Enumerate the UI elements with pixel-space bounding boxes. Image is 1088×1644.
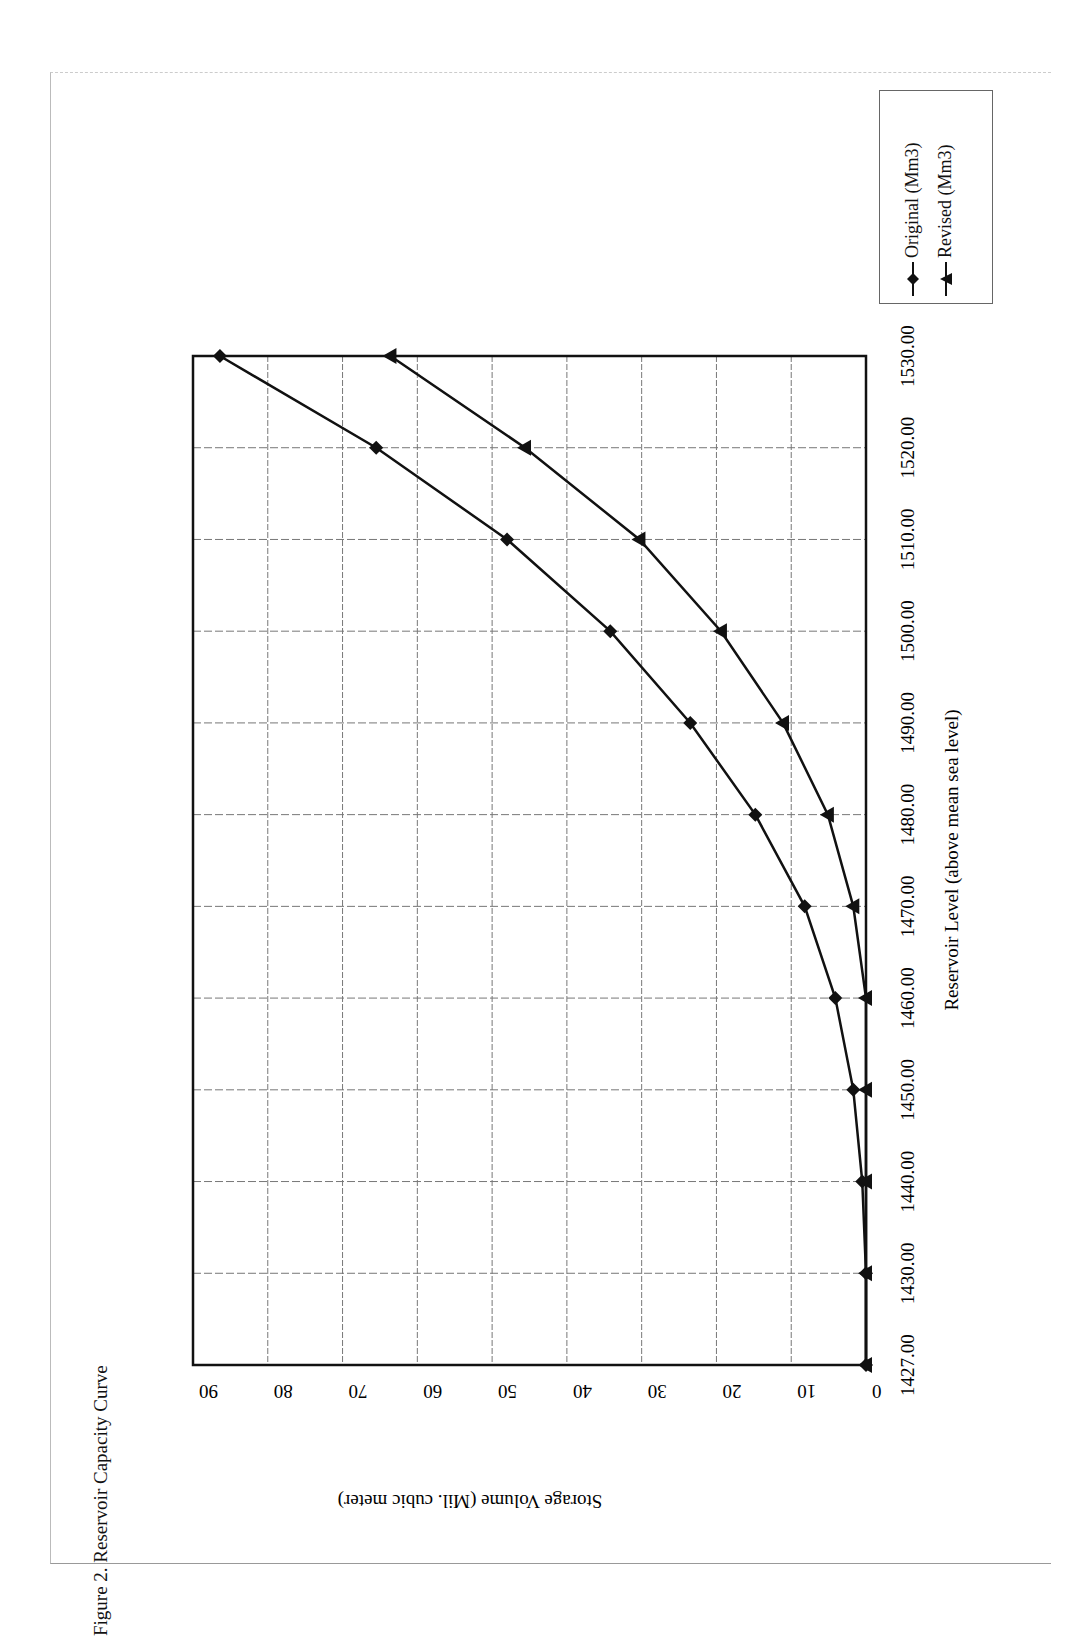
triangle-marker-icon <box>382 348 396 364</box>
legend-line-revised <box>945 262 947 296</box>
x-tick-label: 1427.00 <box>897 1334 918 1396</box>
diamond-marker-icon <box>798 899 812 913</box>
plot-area <box>193 356 866 1365</box>
x-tick-label: 1440.00 <box>897 1151 918 1213</box>
x-tick-label: 1430.00 <box>897 1242 918 1304</box>
x-tick-label: 1520.00 <box>897 417 918 479</box>
triangle-marker-icon <box>517 440 531 456</box>
legend-label-revised: Revised (Mm3) <box>935 145 956 258</box>
chart-grid <box>193 356 866 1365</box>
legend-label-original: Original (Mm3) <box>902 143 923 258</box>
y-tick-label: 60 <box>423 1381 442 1402</box>
x-tick-label: 1480.00 <box>897 784 918 846</box>
x-tick-label: 1470.00 <box>897 875 918 937</box>
diamond-marker-icon <box>828 991 842 1005</box>
legend-item-revised: Revised (Mm3) <box>935 145 956 296</box>
legend-item-original: Original (Mm3) <box>902 143 923 296</box>
y-tick-label: 70 <box>349 1381 368 1402</box>
legend-line-original <box>912 262 914 296</box>
x-tick-label: 1530.00 <box>897 325 918 387</box>
y-tick-label: 30 <box>648 1381 667 1402</box>
chart-series <box>213 348 873 1373</box>
y-tick-label: 20 <box>722 1381 741 1402</box>
figure-caption: Figure 2. Reservoir Capacity Curve <box>90 1365 112 1636</box>
series-line <box>220 356 866 1365</box>
triangle-marker-icon <box>820 807 834 823</box>
axis-tick-labels: 01020304050607080901427.001430.001440.00… <box>199 325 918 1402</box>
y-tick-label: 50 <box>498 1381 517 1402</box>
x-axis-label: Reservoir Level (above mean sea level) <box>941 709 963 1010</box>
diamond-marker-icon <box>907 273 919 285</box>
x-tick-label: 1500.00 <box>897 600 918 662</box>
diamond-marker-icon <box>213 349 227 363</box>
triangle-marker-icon <box>940 273 952 285</box>
x-tick-label: 1510.00 <box>897 509 918 571</box>
chart-legend: Original (Mm3) Revised (Mm3) <box>879 90 993 304</box>
y-axis-label: Storage Volume (Mil. cubic meter) <box>338 1490 603 1512</box>
triangle-marker-icon <box>775 715 789 731</box>
y-tick-label: 40 <box>573 1381 592 1402</box>
y-tick-label: 0 <box>872 1381 882 1402</box>
y-tick-label: 10 <box>797 1381 816 1402</box>
x-tick-label: 1490.00 <box>897 692 918 754</box>
x-tick-label: 1460.00 <box>897 967 918 1029</box>
x-tick-label: 1450.00 <box>897 1059 918 1121</box>
y-tick-label: 80 <box>274 1381 293 1402</box>
y-tick-label: 90 <box>199 1381 218 1402</box>
